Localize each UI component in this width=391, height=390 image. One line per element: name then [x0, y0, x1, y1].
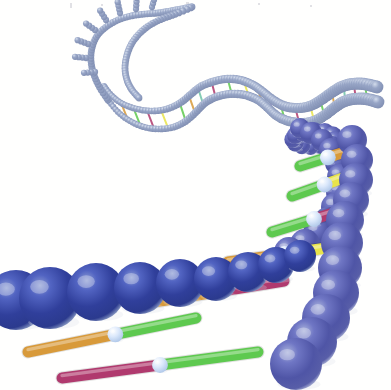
- right-backbone-sphere-3-highlight: [339, 190, 350, 198]
- scan-speck-3: [310, 5, 312, 7]
- bp-6-joint-highlight: [320, 180, 325, 183]
- right-backbone-sphere-7-highlight: [321, 280, 335, 290]
- lower-backbone-sphere-5-highlight: [202, 266, 215, 276]
- dna-illustration-figure: Three-dimensional rendering of a DNA dou…: [0, 0, 391, 390]
- lower-backbone-sphere-8: [284, 240, 316, 272]
- right-backbone-sphere-1-highlight: [347, 151, 357, 158]
- bp-5-joint-highlight: [309, 214, 314, 217]
- distant-backbone-bead-front-116: [372, 96, 385, 109]
- right-backbone-sphere-0-highlight: [342, 131, 351, 138]
- lower-backbone-sphere-8-highlight: [290, 247, 300, 254]
- bp-7-joint-highlight: [323, 153, 328, 156]
- right-backbone-sphere-9-highlight: [296, 328, 311, 339]
- bp-5-joint: [306, 211, 322, 227]
- right-backbone-sphere-4-highlight: [333, 209, 344, 217]
- midground-backbone-sphere-3-highlight: [323, 143, 330, 148]
- hairpin-loop-bead-108: [136, 95, 143, 102]
- hairpin-spike-2-bead-3: [83, 20, 89, 26]
- right-backbone-sphere-6-highlight: [326, 255, 339, 265]
- right-backbone-sphere-8-highlight: [311, 304, 325, 315]
- right-backbone-sphere-5-highlight: [329, 231, 342, 240]
- right-backbone-sphere-10: [270, 338, 322, 390]
- lower-backbone-sphere-3-highlight: [123, 273, 139, 284]
- scan-speck-0: [70, 3, 72, 8]
- lower-backbone-sphere-2-highlight: [77, 275, 94, 288]
- hairpin-spike-7-bead-3: [81, 70, 87, 76]
- scan-speck-1: [101, 4, 103, 6]
- right-backbone-sphere-2-highlight: [345, 170, 355, 177]
- right-backbone-sphere-10-highlight: [279, 349, 295, 360]
- midground-backbone-sphere-1-highlight: [304, 127, 311, 132]
- midground-backbone-sphere-0-highlight: [294, 122, 300, 126]
- bp-2-joint-highlight: [155, 360, 160, 363]
- bp-6-joint: [317, 177, 333, 193]
- hairpin-spike-1-bead-3: [75, 37, 81, 43]
- bp-2-joint: [152, 357, 168, 373]
- lower-backbone-sphere-7-highlight: [264, 255, 275, 263]
- dna-helix-canvas: [0, 0, 391, 390]
- hairpin-spike-0-bead-3: [72, 54, 78, 60]
- lower-backbone-sphere-4-highlight: [165, 269, 179, 280]
- hairpin-spike-3-bead-3: [97, 8, 103, 14]
- scan-speck-4: [258, 3, 260, 5]
- midground-backbone-sphere-2-highlight: [315, 134, 322, 139]
- bp-1-joint-highlight: [110, 330, 115, 333]
- bp-7-joint: [320, 149, 336, 165]
- scan-speck-2: [186, 2, 189, 4]
- lower-backbone-sphere-6-highlight: [235, 260, 247, 269]
- bp-1-joint: [107, 326, 123, 342]
- lower-backbone-sphere-1-highlight: [30, 280, 49, 294]
- distant-backbone-bead-back-116: [371, 81, 384, 94]
